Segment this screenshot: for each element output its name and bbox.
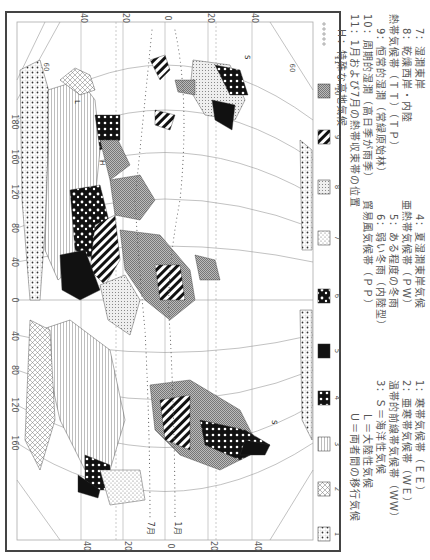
swatch-6 bbox=[318, 289, 330, 303]
legend-right-column: 7：湿潤東岸 8：乾燥西岸・内陸 熱帯気候帯（ＴＴ）（ＴＰ） 9：恒常的湿潤（常… bbox=[335, 14, 426, 208]
region-polar-north bbox=[20, 60, 50, 300]
lon-tick: 160 bbox=[10, 149, 19, 164]
swatch-4 bbox=[318, 391, 330, 405]
region-borneo bbox=[155, 110, 175, 130]
lon-tick: 180 bbox=[10, 114, 19, 129]
legend-group-pp: 貿易風気候帯（ＰＰ） bbox=[361, 200, 374, 331]
region-indonesia bbox=[150, 55, 170, 80]
svg-text:40: 40 bbox=[82, 541, 91, 551]
swatch-1 bbox=[318, 527, 330, 541]
svg-text:1月: 1月 bbox=[173, 521, 182, 534]
region-antarctic-2 bbox=[300, 310, 312, 440]
lon-tick: 80 bbox=[10, 365, 19, 375]
swatch-10 bbox=[318, 84, 330, 98]
region-africa-north bbox=[100, 275, 140, 335]
swatch-2 bbox=[318, 482, 330, 496]
legend-item-6: 6：弱い冬雨（内陸型） bbox=[374, 200, 387, 331]
legend-text: 1：寒帯気候帯（ＥＥ） 2：亜寒帯気候帯（ＷＥ） 温帯的前線帯気候帯（ＷＷ） 3… bbox=[340, 0, 430, 560]
region-australia-sw bbox=[212, 100, 235, 130]
svg-text:20: 20 bbox=[206, 13, 215, 23]
lon-tick: 40 bbox=[10, 257, 19, 267]
lon-tick: 120 bbox=[10, 184, 19, 199]
region-mexico bbox=[100, 470, 145, 505]
longitude-axis-left: 180 160 120 80 40 0 40 80 120 160 bbox=[10, 114, 19, 450]
legend-group-ww: 温帯的前線帯気候帯（ＷＷ） bbox=[387, 380, 400, 523]
legend-item-h: Ｈ：特殊な高地気候 bbox=[335, 14, 348, 208]
swatch-7 bbox=[318, 231, 330, 245]
legend-swatches bbox=[318, 23, 330, 541]
legend-middle-column: 4：夏湿潤東岸気候 亜熱帯気候帯（ＰＷ） 5：ある程度の冬雨 6：弱い冬雨（内陸… bbox=[361, 200, 426, 331]
landmasses bbox=[20, 55, 312, 505]
legend-item-11: 11：1月および7月の熱帯収束帯の位置 bbox=[348, 14, 361, 208]
svg-text:60: 60 bbox=[42, 63, 50, 72]
svg-text:S: S bbox=[270, 420, 278, 425]
legend-group-pw: 亜熱帯気候帯（ＰＷ） bbox=[400, 200, 413, 331]
svg-text:60: 60 bbox=[288, 64, 296, 73]
svg-text:S: S bbox=[243, 55, 251, 60]
legend-item-8: 8：乾燥西岸・内陸 bbox=[400, 14, 413, 208]
svg-text:40: 40 bbox=[253, 541, 262, 551]
svg-text:40: 40 bbox=[79, 13, 88, 23]
lon-tick: 160 bbox=[10, 435, 19, 450]
swatch-3 bbox=[318, 437, 330, 451]
legend-item-3: 3：Ｓ＝海洋性気候 bbox=[374, 380, 387, 523]
svg-text:7月: 7月 bbox=[146, 521, 155, 534]
svg-text:L: L bbox=[73, 100, 81, 104]
swatch-9 bbox=[318, 130, 330, 144]
legend-left-column: 1：寒帯気候帯（ＥＥ） 2：亜寒帯気候帯（ＷＥ） 温帯的前線帯気候帯（ＷＷ） 3… bbox=[348, 380, 426, 523]
swatch-8 bbox=[318, 180, 330, 194]
svg-text:20: 20 bbox=[123, 541, 132, 551]
legend-item-9: 9：恒常的湿潤（常緑原始林） bbox=[374, 14, 387, 208]
legend-item-7: 7：湿潤東岸 bbox=[413, 14, 426, 208]
legend-item-3-u: Ｕ＝両者間の移行気候 bbox=[348, 380, 361, 523]
legend-group-tt: 熱帯気候帯（ＴＴ）（ＴＰ） bbox=[387, 14, 400, 208]
lon-tick: 120 bbox=[10, 397, 19, 412]
latitude-axis-top: 40 20 0 20 40 bbox=[79, 13, 259, 23]
region-southeast-asia bbox=[110, 175, 155, 220]
svg-text:20: 20 bbox=[209, 541, 218, 551]
legend-item-10: 10：周期的湿潤（高日季が雨季） bbox=[361, 14, 374, 208]
svg-text:20: 20 bbox=[121, 13, 130, 23]
legend-item-3-l: Ｌ＝大陸性気候 bbox=[361, 380, 374, 523]
lon-tick: 0 bbox=[10, 297, 19, 302]
svg-text:40: 40 bbox=[250, 13, 259, 23]
region-new-guinea bbox=[175, 80, 195, 95]
region-amazon bbox=[160, 395, 190, 450]
latitude-axis-bottom: 40 20 0 20 40 bbox=[82, 541, 262, 551]
region-antarctic-1 bbox=[300, 140, 312, 250]
swatch-5 bbox=[318, 344, 330, 358]
legend-item-4: 4：夏湿潤東岸気候 bbox=[413, 200, 426, 331]
lon-tick: 80 bbox=[10, 223, 19, 233]
legend-item-5: 5：ある程度の冬雨 bbox=[387, 200, 400, 331]
swatch-11 bbox=[323, 23, 325, 45]
lon-tick: 40 bbox=[10, 331, 19, 341]
legend-item-1: 1：寒帯気候帯（ＥＥ） bbox=[413, 380, 426, 523]
svg-text:0: 0 bbox=[166, 543, 175, 548]
legend-item-2: 2：亜寒帯気候帯（ＷＥ） bbox=[400, 380, 413, 523]
region-north-america-west bbox=[25, 320, 55, 470]
svg-text:0: 0 bbox=[163, 15, 172, 20]
svg-text:H: H bbox=[98, 160, 106, 165]
